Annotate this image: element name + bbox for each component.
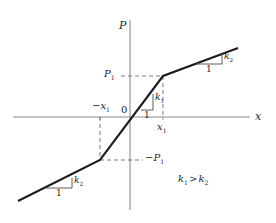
neg-p1-tick-label: −P1 [145,153,164,165]
lower-left-slope-rise-label: k2 [74,176,83,187]
slope-condition-right-sub: 2 [204,179,208,186]
upper-right-slope-run-label: 1 [206,65,212,74]
plot-svg [0,0,276,223]
y-axis-label: P [119,20,126,31]
neg-x1-tick-label: −x1 [92,101,110,113]
center-slope-rise-label: k1 [155,93,164,104]
slope-condition-label: k1>k2 [178,174,208,186]
p1-tick-label: P1 [104,69,115,81]
center-slope-run-label: 1 [144,111,150,120]
x-axis-label: x [255,111,261,122]
neg-p1-tick-label-sub: 1 [160,158,164,165]
slope-condition-relation: > [189,173,197,184]
lower-left-slope-rise-sub: 2 [79,181,83,187]
upper-right-slope-rise-label: k2 [224,52,233,63]
upper-right-slope-rise-sub: 2 [229,57,233,63]
p1-tick-label-base: P [104,68,111,79]
x1-tick-label: x1 [157,122,167,134]
neg-x1-tick-label-sub: 1 [106,106,110,113]
figure-canvas: P x 0 P1 −P1 x1 −x1 k2 1 k1 1 k2 1 k1>k2 [0,0,276,223]
origin-label: 0 [121,105,127,115]
p1-tick-label-sub: 1 [111,74,115,81]
x1-tick-label-sub: 1 [163,127,167,134]
slope-condition-left-sub: 1 [184,179,188,186]
lower-left-slope-run-label: 1 [56,189,62,198]
center-slope-rise-sub: 1 [160,98,164,104]
